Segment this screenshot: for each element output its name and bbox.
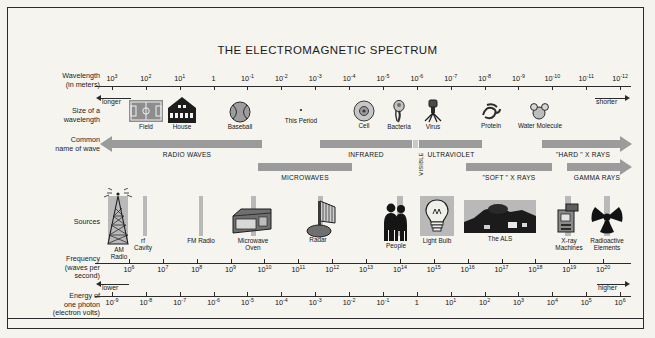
light-bulb-icon [420, 196, 454, 236]
frequency-axis-line [95, 263, 631, 264]
size-example-protein-label: Protein [475, 122, 507, 129]
energy-tick-label: 10-4 [266, 298, 296, 307]
row-label-size: Size of a wavelength [22, 107, 100, 124]
wavelength-shorter-label: shorter [596, 98, 617, 105]
source-am-radio-label-line2: Radio [97, 253, 141, 260]
x-ray-machine-icon [554, 202, 584, 236]
row-label-common-name: Common name of wave [22, 136, 100, 153]
energy-tick [518, 292, 519, 296]
size-example-field: Field [129, 100, 163, 122]
frequency-tick [400, 259, 401, 263]
row-label-sources-text: Sources [22, 218, 100, 227]
frequency-tick [603, 259, 604, 263]
size-example-house-label: House [165, 123, 199, 130]
wave-band-hard-x-rays-label: "HARD " X RAYS [539, 151, 627, 158]
frequency-tick [332, 259, 333, 263]
frequency-tick [366, 259, 367, 263]
energy-tick [214, 292, 215, 296]
size-example-protein: Protein [480, 101, 502, 121]
wavelength-tick [620, 86, 621, 90]
frequency-tick-label: 1014 [385, 265, 415, 274]
source-radioactive-elements-label-line2: Elements [583, 244, 631, 251]
rf-cavity-icon [143, 196, 147, 236]
frequency-tick-label: 1015 [419, 265, 449, 274]
size-example-water-molecule-label: Water Molecule [515, 122, 565, 129]
source-radar-label-line1: Radar [297, 236, 339, 243]
wavelength-tick [586, 86, 587, 90]
cell-icon [353, 100, 375, 122]
frequency-tick-label: 1012 [317, 265, 347, 274]
virus-icon [423, 99, 443, 123]
protein-icon [480, 101, 502, 121]
energy-tick-label: 10-5 [232, 298, 262, 307]
size-example-virus: Virus [423, 99, 443, 123]
frequency-tick [468, 259, 469, 263]
source-fm-radio-label-line1: FM Radio [180, 237, 222, 244]
frequency-tick-label: 108 [182, 265, 212, 274]
frequency-tick [197, 259, 198, 263]
frequency-tick-label: 1017 [487, 265, 517, 274]
frequency-tick-label: 109 [216, 265, 246, 274]
source-people-label-line1: People [374, 242, 418, 249]
wavelength-tick [247, 86, 248, 90]
frequency-tick-label: 1016 [453, 265, 483, 274]
frequency-tick [264, 259, 265, 263]
size-example-bacteria-label: Bacteria [381, 123, 417, 130]
energy-lower-label: lower [102, 284, 118, 291]
frequency-tick [298, 259, 299, 263]
energy-tick-label: 10-1 [368, 298, 398, 307]
wavelength-tick [417, 86, 418, 90]
frequency-tick-label: 1019 [554, 265, 584, 274]
frequency-tick [163, 259, 164, 263]
row-label-frequency: Frequency (waves per second) [22, 255, 100, 281]
wavelength-tick-label: 10-2 [266, 74, 296, 83]
wavelength-tick-label: 10-4 [334, 74, 364, 83]
radioactive-icon [589, 202, 625, 236]
frequency-tick-label: 1013 [351, 265, 381, 274]
wave-band-gamma-rays-label: GAMMA RAYS [562, 174, 632, 181]
fm-radio-icon [199, 196, 203, 236]
energy-tick [315, 292, 316, 296]
energy-tick-label: 103 [503, 298, 533, 307]
size-example-this-period: This Period [297, 104, 305, 114]
wavelength-tick [315, 86, 316, 90]
energy-tick-label: 102 [470, 298, 500, 307]
energy-tick-label: 10-7 [165, 298, 195, 307]
row-label-energy-line3: (electron volts) [14, 309, 100, 318]
energy-tick [620, 292, 621, 296]
wavelength-tick-label: 10-7 [436, 74, 466, 83]
energy-tick-label: 10-3 [300, 298, 330, 307]
wavelength-tick-label: 1 [199, 74, 229, 83]
wavelength-tick [552, 86, 553, 90]
wavelength-tick-label: 10-8 [470, 74, 500, 83]
energy-higher-label: higher [598, 284, 617, 291]
energy-tick [247, 292, 248, 296]
wavelength-axis-line [95, 86, 631, 87]
house-icon [167, 97, 197, 123]
wavelength-tick-label: 103 [97, 74, 127, 83]
energy-tick-label: 10-2 [334, 298, 364, 307]
size-example-cell: Cell [353, 100, 375, 122]
energy-tick [383, 292, 384, 296]
wavelength-tick [214, 86, 215, 90]
energy-tick [552, 292, 553, 296]
wavelength-tick [112, 86, 113, 90]
field-icon [129, 100, 163, 122]
water-molecule-icon [529, 102, 551, 120]
wavelength-tick-label: 10-11 [571, 74, 601, 83]
wavelength-tick [518, 86, 519, 90]
frequency-tick-label: 1011 [283, 265, 313, 274]
energy-tick-label: 104 [537, 298, 567, 307]
wavelength-tick-label: 101 [165, 74, 195, 83]
energy-tick [586, 292, 587, 296]
energy-tick [146, 292, 147, 296]
source-the-als-label-line1: The ALS [474, 235, 526, 242]
radar-icon [304, 196, 342, 240]
frequency-tick-label: 1010 [249, 265, 279, 274]
energy-tick-label: 106 [605, 298, 635, 307]
electromagnetic-spectrum-poster: THE ELECTROMAGNETIC SPECTRUM Wavelength … [0, 0, 655, 338]
bacteria-icon [390, 99, 408, 123]
wave-band-infrared-label: INFRARED [320, 151, 412, 158]
size-example-this-period-label: This Period [279, 117, 323, 124]
frequency-tick-label: 106 [114, 265, 144, 274]
